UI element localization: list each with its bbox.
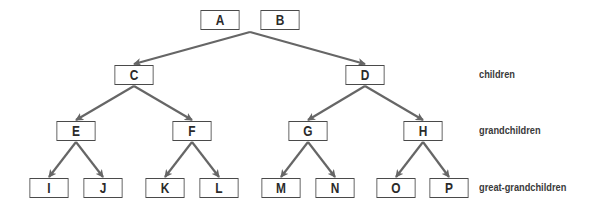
node-a-label: A <box>216 12 225 28</box>
node-g-label: G <box>303 123 312 139</box>
node-h-label: H <box>419 123 428 139</box>
edge-arrow-ab-c <box>134 32 250 64</box>
edge-arrow-ab-d <box>250 32 365 64</box>
edge-arrow-h-p <box>423 142 449 177</box>
node-e-label: E <box>72 123 80 139</box>
node-a: A <box>200 10 239 30</box>
edge-arrow-e-j <box>76 142 103 177</box>
node-l-label: L <box>215 180 222 196</box>
node-k: K <box>145 178 184 198</box>
node-j: J <box>83 178 122 198</box>
node-f: F <box>172 121 211 141</box>
edge-arrow-f-k <box>165 142 192 177</box>
node-j-label: J <box>100 180 107 196</box>
edge-arrow-c-f <box>134 86 192 120</box>
node-k-label: K <box>161 180 170 196</box>
node-d-label: D <box>361 67 370 83</box>
node-i-label: I <box>47 180 50 196</box>
node-g: G <box>288 121 327 141</box>
node-c-label: C <box>130 67 139 83</box>
level-label-great-grandchildren: great-grandchildren <box>479 181 566 193</box>
node-d: D <box>345 65 384 85</box>
node-n: N <box>315 178 354 198</box>
node-e: E <box>56 121 95 141</box>
node-b: B <box>260 10 299 30</box>
node-i: I <box>29 178 68 198</box>
node-f-label: F <box>188 123 195 139</box>
edge-arrow-e-i <box>49 142 76 177</box>
node-p-label: P <box>445 180 453 196</box>
node-c: C <box>114 65 153 85</box>
edge-arrow-g-n <box>308 142 335 177</box>
edge-arrow-g-m <box>281 142 308 177</box>
level-label-children: children <box>479 68 515 80</box>
family-tree-diagram: A B C D E F G H I J K L M N O P children… <box>0 0 592 214</box>
edge-arrow-f-l <box>192 142 219 177</box>
edge-arrow-d-g <box>308 86 365 120</box>
node-o-label: O <box>391 180 400 196</box>
node-b-label: B <box>276 12 285 28</box>
node-p: P <box>429 178 468 198</box>
node-l: L <box>199 178 238 198</box>
node-m-label: M <box>276 180 286 196</box>
edge-arrow-d-h <box>365 86 423 120</box>
edge-arrow-c-e <box>76 86 134 120</box>
node-m: M <box>261 178 300 198</box>
level-label-grandchildren: grandchildren <box>479 124 541 136</box>
node-h: H <box>403 121 442 141</box>
edge-arrow-h-o <box>396 142 423 177</box>
node-n-label: N <box>331 180 340 196</box>
node-o: O <box>376 178 415 198</box>
